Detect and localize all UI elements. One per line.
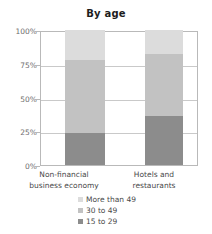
x-category-label-line-1: Non-financial [22,170,106,181]
legend-label-15-to-29: 15 to 29 [86,218,117,226]
y-tick-mark-50 [36,99,40,100]
legend-swatch-more-than-49 [78,197,83,202]
bar-segment-30-to-49 [145,54,183,116]
legend-item-15-to-29[interactable]: 15 to 29 [0,216,212,227]
x-category-label-non-financial-business-economy: Non-financial business economy [22,170,106,191]
bar-non-financial-business-economy[interactable] [65,30,105,165]
y-tick-mark-75 [36,65,40,66]
stacked-bar-chart: By age 100% 75% 50% 25% 0% Non-financial… [0,0,212,234]
x-category-label-line-2: restaurants [116,181,192,192]
y-tick-label-100: 100% [3,28,37,36]
plot-area [40,31,198,166]
bar-segment-15-to-29 [65,133,105,165]
legend-swatch-15-to-29 [78,219,83,224]
y-tick-mark-100 [36,31,40,32]
bar-segment-30-to-49 [65,60,105,133]
chart-legend: More than 49 30 to 49 15 to 29 [0,194,212,227]
y-tick-mark-0 [36,166,40,167]
y-tick-mark-25 [36,132,40,133]
y-tick-label-75: 75% [3,62,37,70]
y-tick-label-50: 50% [3,96,37,104]
bar-hotels-and-restaurants[interactable] [145,30,183,165]
legend-label-30-to-49: 30 to 49 [86,207,117,215]
x-category-label-line-1: Hotels and [116,170,192,181]
bar-segment-15-to-29 [145,116,183,165]
y-tick-label-25: 25% [3,129,37,137]
chart-title: By age [0,8,212,19]
x-category-label-line-2: business economy [22,181,106,192]
bar-segment-more-than-49 [65,30,105,60]
legend-label-more-than-49: More than 49 [86,196,136,204]
bar-segment-more-than-49 [145,30,183,54]
x-category-label-hotels-and-restaurants: Hotels and restaurants [116,170,192,191]
legend-item-30-to-49[interactable]: 30 to 49 [0,205,212,216]
legend-item-more-than-49[interactable]: More than 49 [0,194,212,205]
legend-swatch-30-to-49 [78,208,83,213]
